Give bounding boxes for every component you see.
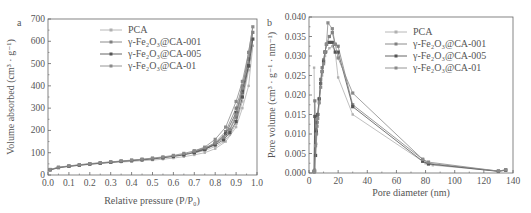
x-tick-label: 0.8: [209, 178, 221, 188]
series-marker: [140, 158, 143, 161]
series-marker: [352, 113, 354, 115]
series-marker: [351, 105, 354, 108]
legend-label: γ-Fe₂O₃@CA-005: [127, 48, 201, 59]
series-marker: [331, 41, 334, 44]
series-marker: [504, 168, 507, 171]
series-marker: [214, 138, 217, 141]
panel-a-x-axis-label: Relative pressure (P/P₀): [104, 195, 200, 207]
y-tick-label: 600: [31, 36, 46, 46]
series-marker: [328, 41, 331, 44]
series-marker: [228, 131, 231, 134]
series-marker: [203, 146, 206, 149]
panel-b-letter: b: [267, 17, 272, 28]
series-marker: [316, 117, 319, 120]
x-tick-label: 120: [477, 176, 492, 186]
legend-marker: [395, 31, 398, 34]
legend-label: γ-Fe₂O₃@CA-01: [412, 62, 481, 73]
panel-b-y-axis-label: Pore volume (cm³ · g⁻¹ · nm⁻¹): [266, 32, 278, 158]
series-marker: [315, 132, 318, 135]
series-marker: [313, 99, 316, 102]
series-marker: [323, 51, 326, 54]
series-marker: [57, 166, 60, 169]
y-tick-label: 0.015: [285, 110, 307, 120]
series-marker: [222, 136, 225, 139]
series-marker: [161, 155, 164, 158]
series-marker: [193, 149, 196, 152]
series-marker: [334, 43, 337, 46]
series-marker: [235, 113, 238, 116]
series-marker: [88, 162, 91, 165]
series-marker: [241, 95, 244, 98]
x-tick-label: 0.3: [105, 178, 117, 188]
series-marker: [78, 163, 81, 166]
series-marker: [427, 160, 430, 163]
series-marker: [120, 159, 123, 162]
series-marker: [322, 62, 325, 65]
y-tick-label: 0.005: [285, 149, 307, 159]
series-marker: [235, 100, 238, 103]
panel-b-x-axis-label: Pore diameter (nm): [372, 187, 450, 199]
series-marker: [235, 120, 238, 123]
series-marker: [214, 148, 216, 150]
legend-marker: [110, 29, 113, 32]
y-tick-label: 0.030: [285, 51, 307, 61]
series-marker: [247, 85, 249, 87]
panel-a-legend: PCAγ-Fe₂O₃@CA-001γ-Fe₂O₃@CA-005γ-Fe₂O₃@C…: [100, 24, 201, 71]
series-marker: [351, 91, 354, 94]
y-tick-label: 0.000: [285, 168, 307, 178]
legend-marker: [395, 67, 398, 70]
legend-marker: [395, 43, 398, 46]
series-marker: [241, 80, 244, 83]
panel-a-isotherm-chart: a 0.00.10.20.30.40.50.60.70.80.91.001002…: [5, 14, 263, 207]
series-marker: [241, 86, 244, 89]
series-marker: [326, 21, 329, 24]
series-marker: [319, 86, 322, 89]
series-marker: [328, 47, 330, 49]
panel-b-pore-distribution-chart: b 0204060801001201400.0000.0050.0100.015…: [266, 12, 520, 199]
series-marker: [337, 56, 340, 59]
series-marker: [224, 125, 227, 128]
series-marker: [109, 160, 112, 163]
series-marker: [251, 25, 254, 28]
x-tick-label: 100: [448, 176, 463, 186]
legend-label: PCA: [128, 24, 148, 35]
y-tick-label: 0.025: [285, 71, 307, 81]
legend-marker: [110, 65, 113, 68]
series-marker: [247, 64, 250, 67]
y-tick-label: 0.020: [285, 90, 307, 100]
legend-marker: [110, 41, 113, 44]
series-marker: [48, 168, 51, 171]
panel-a-y-axis-label: Volume absorbed (cm³ · g⁻¹): [5, 39, 17, 155]
x-tick-label: 0.6: [167, 178, 179, 188]
legend-marker: [395, 55, 398, 58]
panel-a-letter: a: [17, 17, 22, 28]
series-marker: [321, 70, 324, 73]
series-marker: [130, 158, 133, 161]
x-tick-label: 0.7: [188, 178, 200, 188]
series-marker: [337, 45, 340, 48]
x-tick-label: 0.4: [126, 178, 138, 188]
x-tick-label: 0.9: [230, 178, 242, 188]
x-tick-label: 0.1: [63, 178, 75, 188]
series-marker: [235, 126, 237, 128]
series-marker: [204, 152, 206, 154]
legend-label: γ-Fe₂O₃@CA-001: [412, 38, 486, 49]
y-tick-label: 0.035: [285, 32, 307, 42]
series-marker: [318, 101, 321, 104]
legend-label: γ-Fe₂O₃@CA-005: [412, 50, 486, 61]
x-tick-label: 60: [392, 176, 402, 186]
y-tick-label: 500: [31, 59, 46, 69]
y-tick-label: 0.040: [285, 12, 307, 22]
y-tick-label: 0: [40, 170, 45, 180]
series-marker: [241, 107, 243, 109]
series-marker: [251, 37, 254, 40]
legend-label: γ-Fe₂O₃@CA-001: [127, 36, 201, 47]
y-tick-label: 700: [31, 14, 46, 24]
x-tick-label: 0.5: [147, 178, 159, 188]
x-tick-label: 1.0: [251, 178, 263, 188]
y-tick-label: 0.010: [285, 129, 307, 139]
x-tick-label: 0.2: [84, 178, 96, 188]
series-marker: [313, 169, 316, 172]
series-marker: [315, 125, 318, 128]
x-tick-label: 20: [333, 176, 343, 186]
